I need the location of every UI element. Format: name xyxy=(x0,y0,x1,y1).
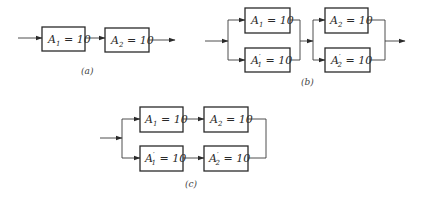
diagram-b-parallel-stages: A1 = 10 A′1 = 10 A2 = 10 A′2 = 10 (b) xyxy=(205,8,405,87)
block-a1: A1 = 10 xyxy=(42,27,91,51)
svg-text:A′2 = 10: A′2 = 10 xyxy=(330,53,372,69)
block-b-a1: A1 = 10 xyxy=(245,8,294,33)
svg-text:A2 = 10: A2 = 10 xyxy=(329,14,373,29)
block-c-a2-prime: A′2 = 10 xyxy=(204,146,250,171)
block-b-a2-prime: A′2 = 10 xyxy=(325,48,372,72)
block-c-a2: A2 = 10 xyxy=(204,107,253,132)
svg-text:A1 = 10: A1 = 10 xyxy=(47,33,91,48)
block-c-a1-prime: A′1 = 10 xyxy=(140,146,186,171)
svg-text:A1 = 10: A1 = 10 xyxy=(250,14,294,29)
block-a2: A2 = 10 xyxy=(105,28,154,52)
caption-b: (b) xyxy=(301,77,314,87)
block-b-a1-prime: A′1 = 10 xyxy=(245,48,292,72)
caption-c: (c) xyxy=(185,179,198,189)
diagram-c-parallel-chains: A1 = 10 A2 = 10 A′1 = 10 A′2 = 10 (c) xyxy=(100,107,266,189)
block-diagrams-figure: A1 = 10 A2 = 10 (a) A1 = 10 A′1 = 10 xyxy=(0,0,421,201)
block-c-a1: A1 = 10 xyxy=(140,107,188,132)
svg-text:A′2 = 10: A′2 = 10 xyxy=(208,151,250,167)
svg-text:A1 = 10: A1 = 10 xyxy=(144,113,188,128)
block-b-a2: A2 = 10 xyxy=(325,8,373,33)
svg-text:A′1 = 10: A′1 = 10 xyxy=(144,151,186,167)
svg-text:A2 = 10: A2 = 10 xyxy=(209,113,253,128)
svg-text:A′1 = 10: A′1 = 10 xyxy=(250,53,292,69)
svg-text:A2 = 10: A2 = 10 xyxy=(110,34,154,49)
diagram-a-cascade: A1 = 10 A2 = 10 (a) xyxy=(18,27,175,76)
caption-a: (a) xyxy=(81,66,94,76)
